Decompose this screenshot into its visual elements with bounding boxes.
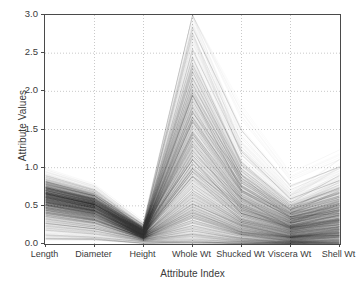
data-polylines — [46, 15, 340, 244]
y-tick-1p5: 1.5 — [0, 124, 38, 134]
parallel-coordinates-figure: Attribute Values Attribute Index 0.00.51… — [0, 0, 362, 289]
x-axis-title: Attribute Index — [44, 268, 341, 279]
x-tick-length: Length — [31, 249, 59, 259]
parallel-coordinates-lines — [45, 15, 340, 244]
x-tick-viscera-wt: Viscera Wt — [268, 249, 311, 259]
x-tick-diameter: Diameter — [75, 249, 112, 259]
y-tick-2p0: 2.0 — [0, 85, 38, 95]
y-tick-0p0: 0.0 — [0, 238, 38, 248]
plot-area — [44, 14, 341, 245]
x-tick-shucked-wt: Shucked Wt — [216, 249, 265, 259]
y-tick-2p5: 2.5 — [0, 47, 38, 57]
x-tick-whole-wt: Whole Wt — [172, 249, 211, 259]
x-tick-height: Height — [129, 249, 155, 259]
y-tick-0p5: 0.5 — [0, 200, 38, 210]
y-tick-1p0: 1.0 — [0, 162, 38, 172]
y-tick-3p0: 3.0 — [0, 9, 38, 19]
x-tick-shell-wt: Shell Wt — [322, 249, 356, 259]
